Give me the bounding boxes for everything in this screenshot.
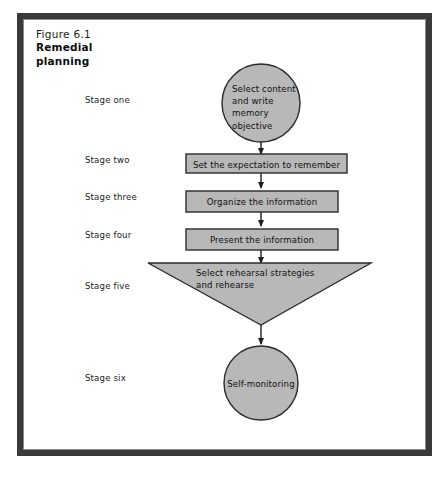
figure-container: Figure 6.1 Remedial planning Stage one S… <box>0 0 448 479</box>
node-stage-one-line-2: and write <box>232 95 306 107</box>
node-stage-six-label: Self-monitoring <box>211 378 311 390</box>
node-stage-one-line-1: Select content <box>232 83 306 95</box>
node-stage-one-line-3: memory <box>232 107 306 119</box>
node-stage-two-label: Set the expectation to remember <box>186 159 347 171</box>
node-stage-four-label: Present the information <box>186 234 338 246</box>
node-stage-one-label: Select content and write memory objectiv… <box>232 83 306 132</box>
node-stage-five-label: Select rehearsal strategies and rehearse <box>196 267 341 291</box>
node-stage-three-label: Organize the information <box>186 196 338 208</box>
node-stage-five-line-2: and rehearse <box>196 279 341 291</box>
node-stage-five-line-1: Select rehearsal strategies <box>196 267 341 279</box>
node-stage-one-line-4: objective <box>232 120 306 132</box>
